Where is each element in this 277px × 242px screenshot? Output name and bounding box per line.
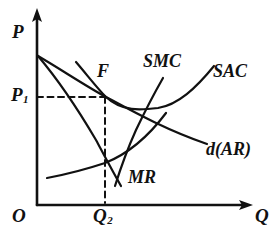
- economics-diagram: P Q O P1 Q2 F SMC SAC d(AR) MR: [0, 0, 277, 242]
- origin-label: O: [12, 206, 26, 225]
- curve-label-sac: SAC: [213, 62, 247, 80]
- quantity-tick-subscript: 2: [107, 214, 113, 226]
- y-axis: [32, 8, 42, 205]
- y-axis-label: P: [12, 22, 24, 41]
- quantity-tick-label-q2: Q2: [93, 206, 113, 226]
- x-axis: [37, 200, 253, 210]
- curve-label-smc: SMC: [143, 52, 181, 70]
- x-axis-label: Q: [255, 206, 269, 225]
- curve-label-mr: MR: [128, 168, 156, 186]
- point-label-f: F: [97, 62, 109, 80]
- curve-d-ar: [38, 56, 207, 144]
- curve-label-d-ar: d(AR): [206, 140, 251, 158]
- price-tick-label-p1: P1: [11, 85, 29, 105]
- quantity-tick-base: Q: [93, 205, 107, 226]
- diagram-canvas: [0, 0, 277, 242]
- price-tick-base: P: [11, 84, 23, 105]
- price-tick-subscript: 1: [23, 93, 29, 105]
